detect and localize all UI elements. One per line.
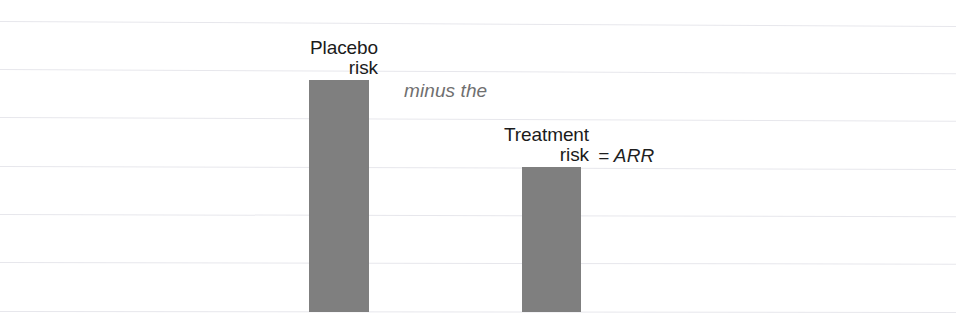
annotation-minus-the: minus the — [404, 81, 487, 101]
bar-label-treatment: Treatment risk — [463, 125, 589, 165]
bar-label-treatment-line1: Treatment — [463, 125, 589, 145]
bar-label-placebo-line1: Placebo — [258, 38, 378, 58]
bar-placebo — [309, 80, 369, 312]
bar-label-placebo-line2: risk — [258, 58, 378, 78]
chart-figure: Placebo risk Treatment risk minus the = … — [0, 0, 956, 323]
annotation-equals-arr: = ARR — [598, 146, 654, 166]
bar-label-placebo: Placebo risk — [258, 38, 378, 78]
bar-treatment — [522, 167, 581, 312]
chart-plot-area: Placebo risk Treatment risk minus the = … — [0, 0, 956, 323]
bar-label-treatment-line2: risk — [463, 145, 589, 165]
